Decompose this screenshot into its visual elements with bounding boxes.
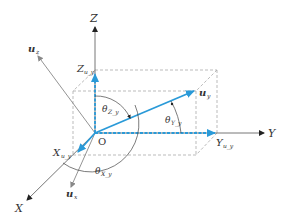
svg-text:Y_y: Y_y [171,119,182,127]
svg-text:u: u [199,87,206,98]
y-axis-label: Y [268,127,277,140]
u-y-label: u y [199,87,211,100]
svg-text:x: x [74,193,78,200]
vector-diagram: Z Y X O u z u x u y Z u_y Y u_y X u_y θ … [0,0,286,224]
x-uy-label: X u_y [52,147,72,160]
projection-vectors [95,74,215,133]
svg-text:Z_y: Z_y [107,108,119,116]
svg-text:u_y: u_y [61,152,72,160]
theta-yy-arc [171,101,181,133]
u-x-vector [71,133,95,187]
x-axis-label: X [14,202,24,215]
svg-text:X_y: X_y [100,170,112,178]
u-x-label: u x [66,188,78,200]
x-uy-projection [78,133,95,152]
svg-text:u: u [66,188,73,199]
theta-zy-label: θ Z_y [102,104,119,116]
z-axis-label: Z [89,12,98,25]
svg-text:u_y: u_y [84,68,95,76]
origin-label: O [98,136,106,147]
svg-text:X: X [52,147,61,158]
svg-text:u: u [28,43,35,54]
y-uy-label: Y u_y [216,137,234,150]
x-axis [27,133,95,200]
theta-yy-label: θ Y_y [165,115,182,127]
svg-text:u_y: u_y [223,142,234,150]
z-uy-label: Z u_y [76,63,95,76]
svg-text:y: y [206,92,211,100]
u-z-label: u z [28,43,40,55]
svg-text:z: z [35,48,40,55]
